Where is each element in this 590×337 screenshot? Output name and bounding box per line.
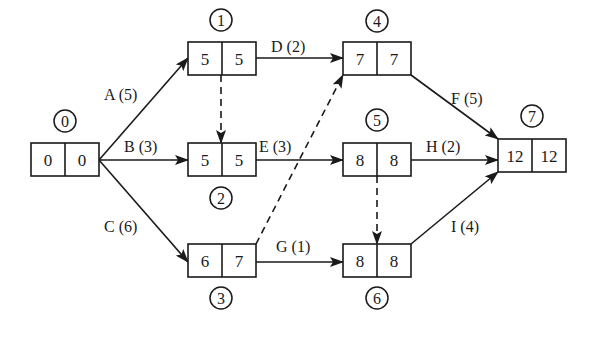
node-number: 7 xyxy=(528,108,536,125)
node-0: 000 xyxy=(31,110,99,176)
node-number: 2 xyxy=(217,190,225,207)
activity-label: D (2) xyxy=(271,38,305,56)
earliest-start: 7 xyxy=(356,50,365,69)
earliest-start: 6 xyxy=(201,252,210,271)
node-7: 12127 xyxy=(498,105,566,172)
earliest-start: 12 xyxy=(507,147,524,166)
node-number: 0 xyxy=(61,113,69,130)
node-number: 1 xyxy=(217,12,225,29)
activity-label: G (1) xyxy=(276,238,310,256)
activity-label: E (3) xyxy=(259,138,291,156)
node-number: 5 xyxy=(373,112,381,129)
node-number: 4 xyxy=(373,13,381,30)
activity-label: I (4) xyxy=(451,218,479,236)
latest-start: 12 xyxy=(541,147,558,166)
earliest-start: 5 xyxy=(201,151,210,170)
node-1: 551 xyxy=(188,9,256,75)
activity-label: H (2) xyxy=(426,138,460,156)
activity-arrow xyxy=(411,75,498,139)
node-5: 885 xyxy=(343,109,411,176)
network-diagram: 00055155267377488588612127 A (5)B (3)C (… xyxy=(0,0,590,337)
latest-start: 0 xyxy=(78,151,87,170)
node-6: 886 xyxy=(343,244,411,309)
activity-label: A (5) xyxy=(104,86,137,104)
latest-start: 8 xyxy=(390,252,399,271)
node-3: 673 xyxy=(188,244,256,309)
node-2: 552 xyxy=(188,143,256,209)
activity-label: C (6) xyxy=(104,218,137,236)
latest-start: 8 xyxy=(390,151,399,170)
earliest-start: 8 xyxy=(356,151,365,170)
activity-label: F (5) xyxy=(451,90,483,108)
latest-start: 5 xyxy=(235,50,244,69)
node-4: 774 xyxy=(343,10,411,75)
latest-start: 5 xyxy=(235,151,244,170)
latest-start: 7 xyxy=(390,50,399,69)
activity-label: B (3) xyxy=(124,138,157,156)
earliest-start: 5 xyxy=(201,50,210,69)
node-number: 3 xyxy=(217,290,225,307)
latest-start: 7 xyxy=(235,252,244,271)
earliest-start: 0 xyxy=(44,151,53,170)
earliest-start: 8 xyxy=(356,252,365,271)
node-number: 6 xyxy=(373,290,381,307)
activity-arrow xyxy=(99,160,188,262)
